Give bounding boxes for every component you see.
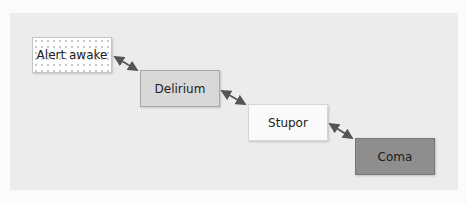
node-label: Delirium [155,82,206,96]
node-label: Coma [378,150,413,164]
node-coma: Coma [355,138,435,175]
node-label: Stupor [268,116,308,130]
node-delirium: Delirium [140,70,220,107]
node-alert-awake: Alert awake [32,37,112,73]
arrow-alert-delirium [115,57,137,70]
arrow-stupor-coma [330,124,352,138]
arrow-delirium-stupor [222,91,245,104]
node-label: Alert awake [37,48,108,62]
node-stupor: Stupor [248,104,328,141]
